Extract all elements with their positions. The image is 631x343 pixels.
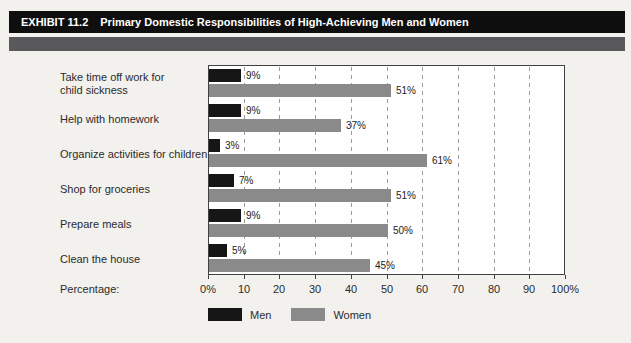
men-bar [209, 104, 241, 117]
women-bar [209, 119, 341, 132]
axis-tick [208, 275, 209, 279]
axis-tick-label: 10 [238, 283, 250, 295]
axis-tick-label: 100% [551, 283, 579, 295]
women-value-label: 45% [375, 259, 395, 272]
axis-tick-label: 90 [523, 283, 535, 295]
men-value-label: 5% [232, 244, 246, 257]
women-bar [209, 189, 391, 202]
legend-item-women: Women [291, 308, 371, 321]
men-value-label: 9% [246, 104, 260, 117]
axis-tick-label: 40 [345, 283, 357, 295]
women-value-label: 51% [396, 189, 416, 202]
gridline [351, 67, 352, 273]
axis-tick-label: 70 [452, 283, 464, 295]
gridline [494, 67, 495, 273]
axis-tick-label: 80 [488, 283, 500, 295]
category-label: Clean the house [60, 253, 208, 266]
axis-tick [422, 275, 423, 279]
women-bar [209, 84, 391, 97]
men-bar [209, 69, 241, 82]
men-bar [209, 139, 220, 152]
women-value-label: 50% [393, 224, 413, 237]
women-value-label: 51% [396, 84, 416, 97]
men-value-label: 9% [246, 69, 260, 82]
women-value-label: 37% [346, 119, 366, 132]
gridline [279, 67, 280, 273]
axis-tick [458, 275, 459, 279]
category-label: Take time off work for child sickness [60, 71, 208, 97]
men-bar [209, 244, 227, 257]
men-value-label: 7% [239, 174, 253, 187]
legend-item-men: Men [208, 308, 271, 321]
axis-tick [315, 275, 316, 279]
axis-tick [529, 275, 530, 279]
gridline [315, 67, 316, 273]
gridline [422, 67, 423, 273]
axis-tick-label: 20 [273, 283, 285, 295]
bar-chart: Take time off work for child sickness9%5… [0, 0, 631, 343]
axis-tick [244, 275, 245, 279]
women-value-label: 61% [432, 154, 452, 167]
legend-label-women: Women [333, 309, 371, 321]
gridline [387, 67, 388, 273]
exhibit-page: EXHIBIT 11.2 Primary Domestic Responsibi… [0, 0, 631, 343]
axis-tick-label: 50 [381, 283, 393, 295]
legend: MenWomen [208, 308, 371, 321]
women-bar [209, 224, 388, 237]
men-legend-swatch [208, 308, 242, 321]
axis-tick [387, 275, 388, 279]
men-bar [209, 174, 234, 187]
women-bar [209, 154, 427, 167]
women-bar [209, 259, 370, 272]
axis-tick-label: 30 [309, 283, 321, 295]
gridline [458, 67, 459, 273]
gridline [244, 67, 245, 273]
axis-tick-label: 0% [200, 283, 216, 295]
women-legend-swatch [291, 308, 325, 321]
category-label: Help with homework [60, 113, 208, 126]
men-value-label: 9% [246, 209, 260, 222]
category-label: Organize activities for children [60, 148, 208, 161]
axis-tick-label: 60 [416, 283, 428, 295]
axis-tick [279, 275, 280, 279]
axis-caption: Percentage: [60, 283, 119, 295]
axis-tick [565, 275, 566, 279]
men-value-label: 3% [225, 139, 239, 152]
legend-label-men: Men [250, 309, 271, 321]
axis-tick [494, 275, 495, 279]
category-label: Prepare meals [60, 218, 208, 231]
category-label: Shop for groceries [60, 183, 208, 196]
axis-tick [351, 275, 352, 279]
men-bar [209, 209, 241, 222]
gridline [529, 67, 530, 273]
